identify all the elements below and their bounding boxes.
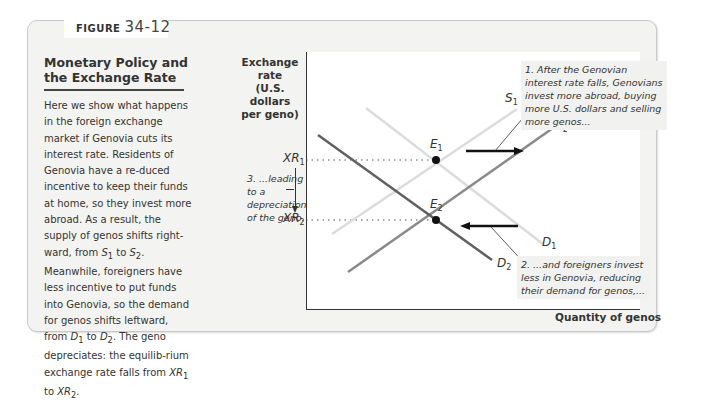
e2-sub: 2 bbox=[438, 204, 443, 213]
y-label-line: per geno) bbox=[234, 108, 306, 121]
e2-label: E2 bbox=[430, 197, 443, 213]
figure-number: 34-12 bbox=[124, 18, 170, 36]
y-label-line: rate bbox=[234, 69, 306, 82]
title-divider bbox=[44, 89, 184, 91]
s1-sub: 1 bbox=[513, 98, 518, 107]
figure-title: Monetary Policy and the Exchange Rate bbox=[44, 55, 189, 85]
figure-label: FIGURE34-12 bbox=[76, 18, 171, 36]
y-label-line: (U.S. dollars bbox=[234, 82, 306, 108]
d2-sub: 2 bbox=[506, 263, 511, 272]
annotation-2: 2. ...and foreigners invest less in Geno… bbox=[517, 256, 649, 299]
e1-sub: 1 bbox=[438, 144, 443, 153]
xr1-tick-label: XR1 bbox=[283, 151, 305, 167]
annotation-3: 3. ...leading to a depreciation of the g… bbox=[247, 172, 309, 224]
x-axis bbox=[306, 309, 640, 310]
e2-text: E bbox=[430, 197, 438, 211]
caption-text: to bbox=[44, 386, 57, 397]
demand-arrow-head-icon bbox=[460, 222, 470, 230]
caption-text: to bbox=[83, 331, 99, 342]
xr1-text: XR bbox=[283, 151, 300, 165]
d1-sub: 1 bbox=[551, 242, 556, 251]
y-label-line: Exchange bbox=[234, 56, 306, 69]
d1-text: D bbox=[542, 235, 551, 249]
caption-symbol: D bbox=[70, 331, 78, 342]
caption-text: to bbox=[113, 247, 129, 258]
caption-text: . bbox=[76, 386, 79, 397]
s1-label: S1 bbox=[505, 91, 518, 107]
figure-label-text: FIGURE bbox=[76, 23, 120, 34]
s1-text: S bbox=[505, 91, 513, 105]
s2-curve bbox=[348, 128, 553, 272]
d2-text: D bbox=[497, 256, 506, 270]
caption-symbol: XR bbox=[169, 367, 183, 378]
d2-curve bbox=[318, 135, 492, 260]
d1-label: D1 bbox=[542, 235, 556, 251]
e1-point bbox=[432, 156, 440, 164]
e2-point bbox=[432, 216, 440, 224]
xr1-sub: 1 bbox=[300, 158, 305, 167]
caption-text: . Meanwhile, foreigners have less incent… bbox=[44, 247, 189, 342]
caption-text: Here we show what happens in the foreign… bbox=[44, 100, 191, 258]
caption-sub: 1 bbox=[183, 371, 188, 381]
d1-curve bbox=[366, 108, 543, 244]
y-axis-label: Exchange rate (U.S. dollars per geno) bbox=[234, 56, 306, 121]
figure-caption: Here we show what happens in the foreign… bbox=[44, 98, 194, 402]
x-axis-label: Quantity of genos bbox=[555, 311, 661, 323]
caption-symbol: XR bbox=[57, 386, 71, 397]
e1-label: E1 bbox=[430, 137, 443, 153]
e1-text: E bbox=[430, 137, 438, 151]
annotation-1: 1. After the Genovian interest rate fall… bbox=[521, 61, 667, 130]
caption-symbol: D bbox=[100, 331, 108, 342]
d2-label: D2 bbox=[497, 256, 511, 272]
